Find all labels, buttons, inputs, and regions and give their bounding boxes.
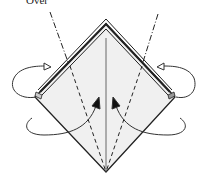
- origami-diagram: [0, 0, 198, 179]
- paper-diamond: [35, 24, 175, 172]
